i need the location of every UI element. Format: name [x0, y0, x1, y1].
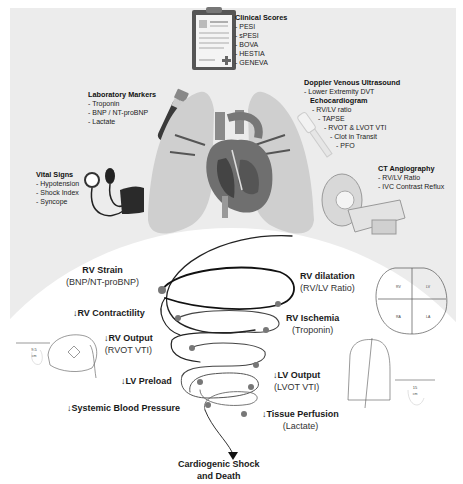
clinical-score-item: - sPESI: [235, 31, 287, 40]
clinical-score-item: - BOVA: [235, 40, 287, 49]
ct-angiography-title: CT Angiography: [378, 164, 444, 173]
outcome-line-2: and Death: [178, 470, 260, 482]
step-rv-strain: RV Strain (BNP/NT-proBNP): [66, 264, 139, 288]
ct-angiography-block: CT Angiography - RV/LV Ratio - IVC Contr…: [378, 164, 444, 191]
lab-marker-item: - BNP / NT-proBNP: [88, 108, 156, 117]
lvot-measure-value: 15: [413, 385, 418, 390]
step-subtitle: (BNP/NT-proBNP): [66, 276, 139, 288]
outcome-label: Cardiogenic Shock and Death: [178, 458, 260, 482]
step-title: ↓LV Output: [273, 369, 320, 381]
step-subtitle: (LVOT VTI): [273, 381, 320, 393]
ct-item: - IVC Contrast Reflux: [378, 182, 444, 191]
vital-signs-title: Vital Signs: [36, 170, 79, 179]
step-rv-contractility: ↓RV Contractility: [73, 307, 145, 319]
echo-item: - RV/LV ratio: [312, 105, 387, 114]
laboratory-markers-title: Laboratory Markers: [88, 90, 156, 99]
clinical-scores-block: Clinical Scores - PESI - sPESI - BOVA - …: [235, 13, 287, 67]
step-title: ↓RV Contractility: [73, 307, 145, 319]
echo-item: - RVOT & LVOT VTI: [324, 123, 387, 132]
lab-marker-item: - Troponin: [88, 99, 156, 108]
rvot-measure-unit: cm: [32, 354, 37, 358]
step-rv-dilatation: RV dilatation (RV/LV Ratio): [300, 270, 355, 294]
vital-signs-block: Vital Signs - Hypotension - Shock Index …: [36, 170, 79, 206]
step-tissue-perfusion: ↓Tissue Perfusion (Lactate): [262, 408, 339, 432]
echo-item: - Clot in Transit: [330, 132, 387, 141]
doppler-title: Doppler Venous Ultrasound: [304, 78, 400, 87]
lab-marker-item: - Lactate: [88, 117, 156, 126]
ct-item: - RV/LV Ratio: [378, 173, 444, 182]
step-subtitle: (RVOT VTI): [104, 344, 153, 356]
clinical-score-item: - GENEVA: [235, 58, 287, 67]
chamber-label-rv: RV: [396, 285, 401, 289]
step-title: ↓RV Output: [104, 332, 153, 344]
chamber-label-ra: RA: [396, 315, 402, 319]
step-subtitle: (Troponin): [286, 324, 339, 336]
echo-item: - PFO: [336, 141, 387, 150]
rvot-echo-diagram: [16, 335, 97, 378]
echocardiogram-title: Echocardiogram: [310, 96, 387, 105]
outcome-line-1: Cardiogenic Shock: [178, 458, 260, 470]
step-subtitle: (Lactate): [262, 420, 339, 432]
vital-sign-item: - Hypotension: [36, 179, 79, 188]
laboratory-markers-block: Laboratory Markers - Troponin - BNP / NT…: [88, 90, 156, 126]
clipboard-icon: [192, 7, 236, 70]
step-title: ↓Tissue Perfusion: [262, 408, 339, 420]
doppler-block: Doppler Venous Ultrasound - Lower Extrem…: [304, 78, 400, 96]
clinical-scores-title: Clinical Scores: [235, 13, 287, 22]
diagram-canvas: 9.5 cm RV LV RA LA 15 cm Clinical Scores…: [0, 0, 463, 484]
step-rv-output: ↓RV Output (RVOT VTI): [104, 332, 153, 356]
blood-pressure-cuff-icon: [85, 168, 144, 216]
lvot-measure-unit: cm: [413, 392, 418, 396]
step-title: ↓LV Preload: [121, 375, 172, 387]
rvot-measure-value: 9.5: [31, 347, 37, 352]
four-chamber-echo-diagram: [376, 268, 447, 334]
step-title: ↓Systemic Blood Pressure: [67, 402, 180, 414]
echo-item: - TAPSE: [318, 114, 387, 123]
step-subtitle: (RV/LV Ratio): [300, 282, 355, 294]
step-rv-ischemia: RV Ischemia (Troponin): [286, 312, 339, 336]
lvot-echo-diagram: [348, 338, 435, 408]
step-systemic-blood-pressure: ↓Systemic Blood Pressure: [67, 402, 180, 414]
chamber-label-lv: LV: [426, 285, 431, 289]
step-title: RV Strain: [66, 264, 139, 276]
step-lv-output: ↓LV Output (LVOT VTI): [273, 369, 320, 393]
step-lv-preload: ↓LV Preload: [121, 375, 172, 387]
chamber-label-la: LA: [426, 315, 431, 319]
clinical-score-item: - PESI: [235, 22, 287, 31]
step-title: RV Ischemia: [286, 312, 339, 324]
step-title: RV dilatation: [300, 270, 355, 282]
clinical-score-item: - HESTIA: [235, 49, 287, 58]
vital-sign-item: - Syncope: [36, 197, 79, 206]
doppler-item: - Lower Extremity DVT: [304, 87, 400, 96]
echocardiogram-block: Echocardiogram - RV/LV ratio - TAPSE - R…: [310, 96, 387, 150]
vital-sign-item: - Shock Index: [36, 188, 79, 197]
